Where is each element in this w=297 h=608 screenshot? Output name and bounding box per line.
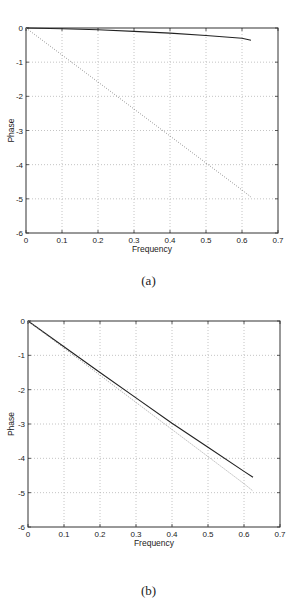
y-tick-label: 0 xyxy=(21,317,26,326)
y-tick-label: -6 xyxy=(18,523,26,532)
grid xyxy=(28,321,280,527)
tick-labels: 00.10.20.30.40.50.60.70-1-2-3-4-5-6 xyxy=(18,317,286,539)
x-tick-label: 0.6 xyxy=(238,530,250,539)
y-tick-label: -3 xyxy=(18,420,26,429)
y-tick-label: -5 xyxy=(18,489,26,498)
x-tick-label: 0 xyxy=(26,530,31,539)
plot-b: 00.10.20.30.40.50.60.70-1-2-3-4-5-6Frequ… xyxy=(0,0,297,560)
x-axis-label: Frequency xyxy=(134,538,175,548)
series-dotted-line xyxy=(28,321,253,491)
y-tick-label: -1 xyxy=(18,351,26,360)
y-tick-label: -2 xyxy=(18,386,26,395)
panel-b: 00.10.20.30.40.50.60.70-1-2-3-4-5-6Frequ… xyxy=(0,0,297,608)
y-axis-label: Phase xyxy=(6,412,16,436)
x-tick-label: 0.5 xyxy=(202,530,214,539)
series-solid-line xyxy=(28,321,253,477)
x-tick-label: 0.1 xyxy=(58,530,70,539)
x-tick-label: 0.7 xyxy=(274,530,286,539)
x-tick-label: 0.2 xyxy=(94,530,106,539)
y-tick-label: -4 xyxy=(18,454,26,463)
caption-b: (b) xyxy=(0,583,297,599)
